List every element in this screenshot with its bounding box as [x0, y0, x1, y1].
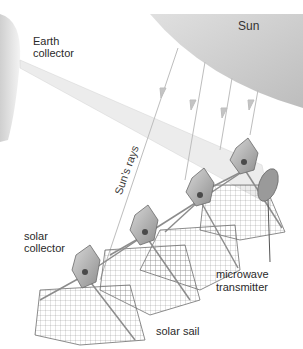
earth-collector-label-line1: Earth: [33, 35, 59, 47]
sun-label: Sun: [238, 20, 259, 32]
earth: [0, 14, 20, 142]
solar-collector-label-line2: collector: [24, 242, 65, 254]
solar-power-diagram: Sun Earth collector Sun’s rays solar col…: [0, 0, 303, 349]
microwave-transmitter-label-line2: transmitter: [216, 281, 268, 293]
earth-collector-label-line2: collector: [33, 47, 74, 59]
microwave-transmitter-label-line1: microwave: [216, 268, 269, 280]
solar-collector-label-line1: solar: [24, 230, 48, 242]
solar-sail-label: solar sail: [156, 325, 199, 337]
sun: [150, 14, 303, 108]
solar-sails: [35, 185, 285, 345]
microwave-beam: [20, 60, 270, 205]
